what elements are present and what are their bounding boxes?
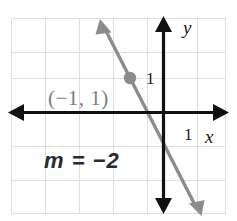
x-axis-tick-label-1: 1 bbox=[184, 126, 193, 143]
point-coordinate-label: (−1, 1) bbox=[48, 88, 109, 109]
coordinate-plane-figure: y x 1 1 (−1, 1) m = −2 bbox=[0, 0, 237, 221]
x-axis bbox=[8, 104, 229, 121]
x-axis-arrow-left bbox=[8, 104, 24, 121]
line-arrowhead-start bbox=[96, 19, 112, 35]
plotted-point-marker bbox=[124, 72, 136, 84]
y-axis-arrow-down bbox=[155, 198, 172, 214]
y-axis-label: y bbox=[183, 18, 191, 37]
grid-lines bbox=[12, 19, 226, 214]
slope-equation-label: m = −2 bbox=[44, 150, 120, 172]
x-axis-label: x bbox=[205, 127, 213, 146]
y-axis-tick-label-1: 1 bbox=[146, 70, 155, 87]
x-axis-arrow-right bbox=[213, 104, 229, 121]
function-line bbox=[96, 19, 205, 216]
graph-canvas bbox=[0, 0, 237, 221]
y-axis bbox=[155, 16, 172, 214]
